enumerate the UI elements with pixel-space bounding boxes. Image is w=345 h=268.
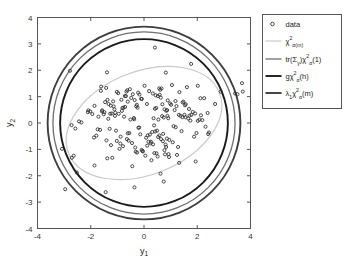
- x-tick-label: 4: [248, 232, 253, 241]
- data-point: [203, 97, 206, 100]
- data-point: [105, 71, 108, 74]
- data-point: [190, 62, 193, 65]
- data-point: [174, 100, 177, 103]
- data-point: [114, 111, 117, 114]
- data-point: [196, 84, 199, 87]
- data-point: [151, 92, 154, 95]
- data-point: [115, 139, 118, 142]
- data-point: [163, 149, 166, 152]
- data-point: [95, 134, 98, 137]
- data-point: [131, 165, 134, 168]
- data-point: [97, 115, 100, 118]
- data-point: [193, 135, 196, 138]
- y-tick-label: -1: [25, 145, 33, 154]
- confidence-boundaries: [48, 27, 241, 220]
- y-tick-label: 0: [28, 119, 33, 128]
- data-point: [157, 118, 160, 121]
- data-point: [159, 172, 162, 175]
- data-point: [60, 147, 63, 150]
- data-point: [108, 127, 111, 130]
- data-point: [240, 82, 243, 85]
- data-point: [173, 109, 176, 112]
- data-point: [206, 111, 209, 114]
- data-point: [131, 93, 134, 96]
- data-point: [130, 96, 133, 99]
- data-point: [143, 84, 146, 87]
- data-point: [175, 153, 178, 156]
- data-point: [214, 102, 217, 105]
- y-tick-label: 4: [28, 14, 33, 23]
- plot-canvas: -4-2024-4-3-2-101234y1y2 dataχ2α(m)tr(Σy…: [0, 0, 345, 268]
- data-point: [119, 135, 122, 138]
- data-point: [148, 90, 151, 93]
- legend-label-data: data: [286, 20, 301, 29]
- data-point: [181, 101, 184, 104]
- data-point: [120, 98, 123, 101]
- data-point: [189, 119, 192, 122]
- data-point: [118, 147, 121, 150]
- data-point: [241, 90, 244, 93]
- y-tick-label: 3: [28, 40, 33, 49]
- data-point: [133, 186, 136, 189]
- data-point: [70, 124, 73, 127]
- data-point: [163, 153, 166, 156]
- data-point: [194, 160, 197, 163]
- y-tick-label: -2: [25, 172, 33, 181]
- data-point: [187, 107, 190, 110]
- data-point: [112, 105, 115, 108]
- y-axis-label: y2: [4, 119, 16, 128]
- data-point: [164, 71, 167, 74]
- data-point: [180, 130, 183, 133]
- data-point: [178, 91, 181, 94]
- data-point: [129, 118, 132, 121]
- data-point: [122, 115, 125, 118]
- data-point: [150, 159, 153, 162]
- data-point: [177, 145, 180, 148]
- data-point: [161, 103, 164, 106]
- data-point: [175, 105, 178, 108]
- x-tick-label: 0: [142, 232, 147, 241]
- data-point: [99, 89, 102, 92]
- boundary-circle: [60, 39, 228, 207]
- data-point: [104, 101, 107, 104]
- data-point: [195, 131, 198, 134]
- scatter-figure: -4-2024-4-3-2-101234y1y2 dataχ2α(m)tr(Σy…: [0, 0, 345, 268]
- data-point: [185, 86, 188, 89]
- data-point: [105, 139, 108, 142]
- data-point: [104, 191, 107, 194]
- data-point: [144, 154, 147, 157]
- y-axis-label-group: y2: [4, 119, 16, 128]
- y-tick-label: 1: [28, 93, 33, 102]
- data-point: [166, 99, 169, 102]
- data-point: [191, 110, 194, 113]
- data-point: [105, 86, 108, 89]
- data-point: [171, 141, 174, 144]
- y-tick-label: 2: [28, 66, 33, 75]
- data-point: [145, 102, 148, 105]
- data-point: [162, 132, 165, 135]
- data-point: [162, 180, 165, 183]
- data-point: [139, 133, 142, 136]
- data-point: [106, 157, 109, 160]
- data-point: [121, 145, 124, 148]
- data-point: [93, 164, 96, 167]
- x-tick-label: -2: [87, 232, 95, 241]
- data-point: [126, 100, 129, 103]
- data-point: [74, 127, 77, 130]
- data-point: [133, 99, 136, 102]
- boundary-ellipse: [49, 45, 238, 201]
- data-point: [117, 112, 120, 115]
- data-point: [134, 146, 137, 149]
- data-point: [109, 144, 112, 147]
- data-point: [156, 155, 159, 158]
- data-point: [199, 97, 202, 100]
- legend: dataχ2α(m)tr(Σy)χ2α(1)gχ2α(h)λ1χ2α(m): [263, 15, 342, 109]
- x-tick-label: -4: [34, 232, 42, 241]
- x-axis-label: y1: [140, 246, 149, 258]
- data-point: [119, 142, 122, 145]
- data-point: [111, 156, 114, 159]
- data-point: [130, 141, 133, 144]
- data-point: [113, 114, 116, 117]
- data-point: [199, 114, 202, 117]
- x-tick-label: 2: [195, 232, 200, 241]
